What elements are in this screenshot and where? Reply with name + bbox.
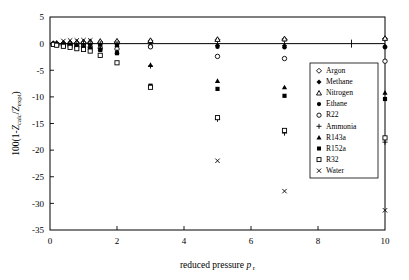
data-point [98,48,102,52]
legend: ArgonMethaneNitrogenEthaneR22AmmoniaR143… [310,63,378,178]
data-point [282,85,287,90]
data-point [61,44,65,48]
data-point [382,90,387,95]
legend-label: R22 [326,110,339,119]
data-point [68,45,72,49]
data-point [383,45,387,49]
x-tick-label: 0 [48,236,53,246]
data-point [55,43,59,47]
legend-label: R152a [326,144,346,153]
data-point [75,47,79,51]
data-point [215,116,219,120]
y-tick-label: -30 [32,199,44,209]
y-tick-label: -15 [32,119,44,129]
legend-marker-open-square [317,158,321,162]
y-tick-label: -25 [32,172,44,182]
scatter-plot: 50-5-10-15-20-25-30-350246810reduced pre… [0,0,409,280]
legend-marker-filled-circle [317,102,321,106]
data-point [215,54,219,58]
data-point [215,45,219,49]
x-tick-label: 6 [249,236,254,246]
data-point [81,47,85,51]
legend-marker-filled-square [317,147,321,151]
data-point [215,159,219,163]
data-point [282,45,286,49]
x-tick-label: 8 [316,236,321,246]
x-tick-label: 4 [182,236,187,246]
legend-label: Argon [326,66,345,75]
data-point [148,45,152,49]
data-point [282,94,286,98]
data-point [115,51,119,55]
data-point [215,78,220,83]
y-tick-label: -10 [32,92,44,102]
y-tick-label: -5 [37,66,45,76]
data-point [148,62,153,67]
legend-label: R32 [326,155,339,164]
legend-label: Ammonia [326,122,357,131]
data-point [148,85,152,89]
y-tick-label: -35 [32,225,44,235]
legend-label: Nitrogen [326,88,353,97]
data-point [383,97,387,101]
data-point [282,189,286,193]
x-axis-title: reduced pressure p r [180,260,256,271]
data-point [282,128,286,132]
data-point [383,59,387,63]
legend-marker-open-circle [317,113,321,117]
legend-label: R143a [326,133,346,142]
data-point [282,56,286,60]
data-point [88,49,92,53]
data-point [115,61,119,65]
x-tick-label: 10 [381,236,391,246]
legend-label: Water [326,166,344,175]
data-point [383,136,387,140]
data-point [98,53,102,57]
chart-figure: 50-5-10-15-20-25-30-350246810reduced pre… [0,0,409,280]
y-tick-label: 5 [40,12,45,22]
y-tick-label: 0 [40,39,45,49]
x-tick-label: 2 [115,236,120,246]
y-axis-title: 100(1-Zcalc/Zexpt) [11,91,22,155]
data-point [215,87,219,91]
legend-label: Methane [326,77,353,86]
legend-label: Ethane [326,99,348,108]
y-tick-label: -20 [32,145,44,155]
